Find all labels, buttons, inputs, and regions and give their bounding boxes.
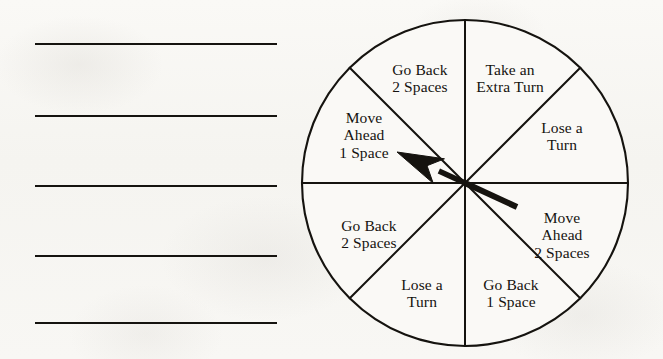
answer-line-2 [35, 115, 277, 117]
sector-go-back-1-space-label: Go Back1 Space [483, 276, 538, 311]
sector-move-ahead-2-spaces-label-line-1: Move [534, 209, 589, 226]
sector-go-back-2-spaces-upper-left-label: Go Back2 Spaces [392, 61, 447, 96]
spinner-figure: Take anExtra TurnLose aTurnMoveAhead2 Sp… [296, 12, 636, 356]
answer-line-1 [35, 43, 277, 45]
answer-line-5 [35, 322, 277, 324]
answer-line-3 [35, 185, 277, 187]
sector-take-an-extra-turn-label: Take anExtra Turn [476, 61, 544, 96]
sector-lose-a-turn-upper-right-label: Lose aTurn [541, 119, 582, 154]
sector-lose-a-turn-lower-left-label: Lose aTurn [401, 276, 442, 311]
sector-go-back-2-spaces-lower-left-label: Go Back2 Spaces [341, 217, 396, 252]
answer-lines-group [0, 0, 300, 359]
spinner-wheel-svg [296, 12, 636, 356]
sector-lose-a-turn-upper-right-label-line-2: Turn [541, 136, 582, 153]
sector-go-back-2-spaces-lower-left-label-line-2: 2 Spaces [341, 234, 396, 251]
sector-move-ahead-1-space-label-line-2: Ahead [339, 126, 388, 143]
sector-move-ahead-2-spaces-label-line-3: 2 Spaces [534, 244, 589, 261]
sector-take-an-extra-turn-label-line-1: Take an [476, 61, 544, 78]
sector-go-back-2-spaces-upper-left-label-line-1: Go Back [392, 61, 447, 78]
sector-go-back-1-space-label-line-2: 1 Space [483, 293, 538, 310]
sector-move-ahead-1-space-label: MoveAhead1 Space [339, 109, 388, 161]
sector-lose-a-turn-upper-right-label-line-1: Lose a [541, 119, 582, 136]
sector-lose-a-turn-lower-left-label-line-2: Turn [401, 293, 442, 310]
sector-go-back-2-spaces-upper-left-label-line-2: 2 Spaces [392, 78, 447, 95]
sector-move-ahead-1-space-label-line-3: 1 Space [339, 144, 388, 161]
sector-move-ahead-2-spaces-label-line-2: Ahead [534, 226, 589, 243]
answer-line-4 [35, 255, 277, 257]
sector-go-back-2-spaces-lower-left-label-line-1: Go Back [341, 217, 396, 234]
sector-move-ahead-2-spaces-label: MoveAhead2 Spaces [534, 209, 589, 261]
worksheet-page: Take anExtra TurnLose aTurnMoveAhead2 Sp… [0, 0, 663, 359]
sector-take-an-extra-turn-label-line-2: Extra Turn [476, 78, 544, 95]
sector-move-ahead-1-space-label-line-1: Move [339, 109, 388, 126]
sector-go-back-1-space-label-line-1: Go Back [483, 276, 538, 293]
sector-lose-a-turn-lower-left-label-line-1: Lose a [401, 276, 442, 293]
